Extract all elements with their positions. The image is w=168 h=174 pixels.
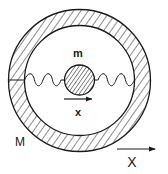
mass-spring-diagram: m x M X	[0, 0, 168, 174]
label-outer-mass: M	[15, 135, 25, 149]
label-inner-displacement: x	[75, 106, 82, 118]
inner-ball	[65, 65, 95, 95]
label-inner-mass: m	[73, 47, 83, 59]
label-outer-displacement: X	[127, 154, 137, 170]
